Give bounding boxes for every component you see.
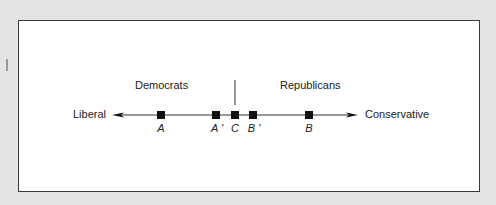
point-c-label: C (231, 122, 239, 134)
group-left-label: Democrats (135, 79, 188, 91)
group-right-label: Republicans (280, 79, 341, 91)
axis-left-label: Liberal (73, 108, 106, 120)
point-a-label: A (157, 122, 164, 134)
axis-graphic (0, 0, 496, 205)
point-b-prime-marker (249, 111, 257, 119)
point-c-marker (231, 111, 239, 119)
axis-right-label: Conservative (365, 108, 429, 120)
point-b-prime-label: B ' (248, 122, 261, 134)
point-a-prime-marker (212, 111, 220, 119)
point-b-label: B (305, 122, 312, 134)
point-a-prime-label: A ' (211, 122, 223, 134)
point-a-marker (157, 111, 165, 119)
point-b-marker (305, 111, 313, 119)
